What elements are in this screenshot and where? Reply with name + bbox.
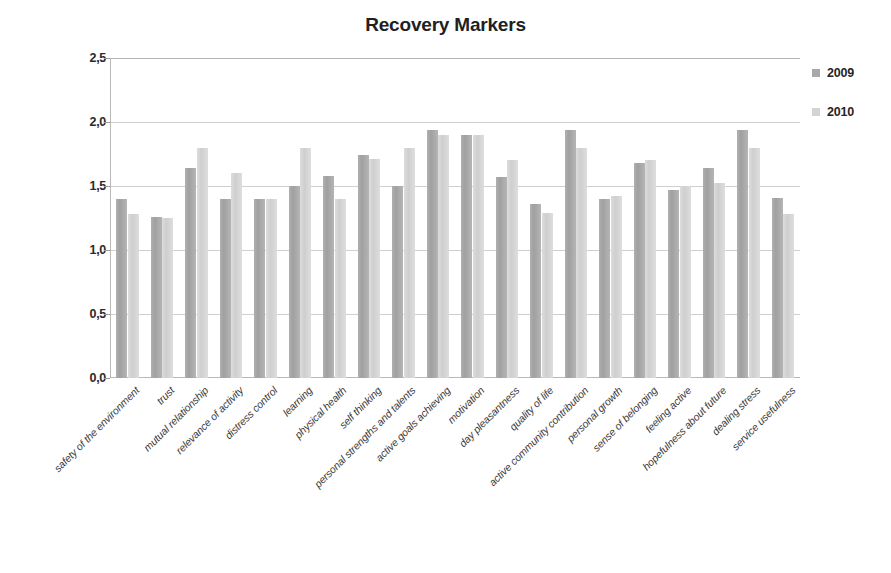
bar-2009[interactable] — [530, 204, 541, 378]
bar-group[interactable] — [214, 58, 249, 378]
y-tick-mark — [104, 314, 110, 315]
y-tick-mark — [104, 250, 110, 251]
bar-2009[interactable] — [737, 130, 748, 378]
bar-2009[interactable] — [772, 198, 783, 378]
bar-group[interactable] — [593, 58, 628, 378]
y-tick-label: 1,0 — [60, 243, 106, 257]
bar-2010[interactable] — [611, 196, 622, 378]
bar-2009[interactable] — [599, 199, 610, 378]
bar-2009[interactable] — [461, 135, 472, 378]
bar-group[interactable] — [662, 58, 697, 378]
y-tick-mark — [104, 58, 110, 59]
y-tick-label: 2,0 — [60, 115, 106, 129]
bar-2010[interactable] — [300, 148, 311, 378]
bar-2010[interactable] — [162, 218, 173, 378]
bar-2010[interactable] — [404, 148, 415, 378]
bar-2009[interactable] — [634, 163, 645, 378]
bar-group[interactable] — [766, 58, 801, 378]
bar-2009[interactable] — [496, 177, 507, 378]
bar-group[interactable] — [145, 58, 180, 378]
bar-group[interactable] — [628, 58, 663, 378]
bar-2010[interactable] — [473, 135, 484, 378]
bar-2009[interactable] — [254, 199, 265, 378]
bar-2009[interactable] — [565, 130, 576, 378]
bar-2009[interactable] — [151, 217, 162, 378]
bar-group[interactable] — [490, 58, 525, 378]
bar-2009[interactable] — [668, 190, 679, 378]
y-tick-label: 1,5 — [60, 179, 106, 193]
bar-group[interactable] — [559, 58, 594, 378]
bar-2009[interactable] — [185, 168, 196, 378]
x-category-label: day pleasantness — [456, 384, 521, 449]
bar-2009[interactable] — [289, 186, 300, 378]
bar-group[interactable] — [697, 58, 732, 378]
bar-2010[interactable] — [749, 148, 760, 378]
bar-2009[interactable] — [220, 199, 231, 378]
bar-2009[interactable] — [358, 155, 369, 378]
bar-group[interactable] — [524, 58, 559, 378]
x-axis-category-labels: safety of the environmenttrustmutual rel… — [0, 378, 891, 568]
bar-group[interactable] — [248, 58, 283, 378]
chart-title: Recovery Markers — [0, 14, 891, 36]
chart-legend: 20092010 — [812, 58, 882, 136]
bar-group[interactable] — [352, 58, 387, 378]
bar-2010[interactable] — [369, 159, 380, 378]
bar-2010[interactable] — [714, 183, 725, 378]
bar-2010[interactable] — [197, 148, 208, 378]
y-tick-label: 2,5 — [60, 51, 106, 65]
bar-2010[interactable] — [128, 214, 139, 378]
bar-2010[interactable] — [576, 148, 587, 378]
x-category-label: trust — [154, 384, 177, 407]
legend-label: 2009 — [827, 66, 854, 80]
bar-2010[interactable] — [680, 186, 691, 378]
y-tick-mark — [104, 186, 110, 187]
bars-layer — [110, 58, 800, 378]
bar-group[interactable] — [455, 58, 490, 378]
bar-group[interactable] — [179, 58, 214, 378]
bar-2010[interactable] — [783, 214, 794, 378]
y-tick-label: 0,5 — [60, 307, 106, 321]
bar-2010[interactable] — [645, 160, 656, 378]
bar-2009[interactable] — [703, 168, 714, 378]
bar-group[interactable] — [110, 58, 145, 378]
bar-group[interactable] — [386, 58, 421, 378]
bar-group[interactable] — [731, 58, 766, 378]
recovery-markers-chart: Recovery Markers 0,00,51,01,52,02,5 safe… — [0, 0, 891, 573]
bar-2010[interactable] — [231, 173, 242, 378]
bar-2010[interactable] — [507, 160, 518, 378]
bar-2009[interactable] — [392, 186, 403, 378]
bar-2010[interactable] — [335, 199, 346, 378]
bar-group[interactable] — [421, 58, 456, 378]
bar-group[interactable] — [317, 58, 352, 378]
x-category-label: service usefulness — [729, 384, 797, 452]
legend-label: 2010 — [827, 105, 854, 119]
y-tick-mark — [104, 378, 110, 379]
legend-swatch-icon — [812, 108, 820, 116]
legend-swatch-icon — [812, 69, 820, 77]
bar-group[interactable] — [283, 58, 318, 378]
bar-2010[interactable] — [542, 213, 553, 378]
bar-2009[interactable] — [116, 199, 127, 378]
x-category-label: safety of the environment — [52, 384, 142, 474]
bar-2010[interactable] — [266, 199, 277, 378]
y-tick-mark — [104, 122, 110, 123]
legend-item-2010[interactable]: 2010 — [812, 97, 882, 127]
y-axis-tick-labels: 0,00,51,01,52,02,5 — [60, 58, 106, 378]
legend-item-2009[interactable]: 2009 — [812, 58, 882, 88]
bar-2009[interactable] — [323, 176, 334, 378]
bar-2009[interactable] — [427, 130, 438, 378]
bar-2010[interactable] — [438, 135, 449, 378]
